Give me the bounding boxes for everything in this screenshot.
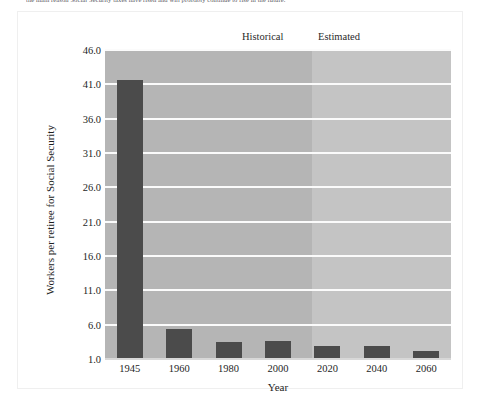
bar-slot — [352, 50, 401, 359]
bar — [117, 80, 143, 359]
bar-slot — [105, 50, 154, 359]
plot-area — [105, 50, 451, 359]
x-axis-tick-label: 2040 — [366, 363, 387, 374]
y-axis-tick-label: 11.0 — [61, 285, 101, 296]
x-axis-line — [105, 358, 451, 360]
y-axis-tick-label: 1.0 — [61, 354, 101, 365]
bar — [166, 329, 192, 359]
bar — [265, 341, 291, 359]
page-caption-text: the main reason Social Security taxes ha… — [0, 0, 493, 6]
bars-layer — [105, 50, 451, 359]
y-axis-title: Workers per retiree for Social Security — [44, 90, 56, 330]
y-axis-tick-label: 26.0 — [61, 182, 101, 193]
x-axis-tick-labels: 1945196019802000202020402060 — [105, 363, 451, 379]
y-axis-tick-label: 6.0 — [61, 319, 101, 330]
y-axis-tick-label: 41.0 — [61, 79, 101, 90]
bar-slot — [402, 50, 451, 359]
x-axis-title: Year — [105, 381, 451, 393]
band-label-estimated: Estimated — [318, 31, 360, 42]
x-axis-tick-label: 2060 — [416, 363, 437, 374]
x-axis-tick-label: 1945 — [119, 363, 140, 374]
y-axis-tick-label: 46.0 — [61, 45, 101, 56]
bar-slot — [253, 50, 302, 359]
y-axis-tick-label: 31.0 — [61, 148, 101, 159]
x-axis-tick-label: 1960 — [169, 363, 190, 374]
band-label-historical: Historical — [242, 31, 283, 42]
y-axis-tick-label: 16.0 — [61, 251, 101, 262]
y-axis-tick-labels: 46.041.036.031.026.021.016.011.06.01.0 — [58, 50, 101, 359]
chart-figure-frame: Historical Estimated 46.041.036.031.026.… — [17, 11, 463, 389]
x-axis-tick-label: 1980 — [218, 363, 239, 374]
x-axis-tick-label: 2020 — [317, 363, 338, 374]
y-axis-tick-label: 36.0 — [61, 113, 101, 124]
y-axis-tick-label: 21.0 — [61, 216, 101, 227]
x-axis-tick-label: 2000 — [268, 363, 289, 374]
bar-slot — [154, 50, 203, 359]
bar — [216, 342, 242, 359]
bar-slot — [303, 50, 352, 359]
bar-slot — [204, 50, 253, 359]
